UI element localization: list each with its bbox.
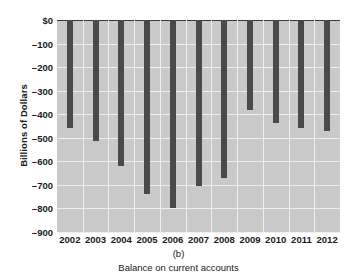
gridline-vertical [237, 20, 238, 232]
bar [247, 20, 253, 110]
y-axis-tick-label: –900 [1, 227, 53, 238]
gridline-vertical [83, 20, 84, 232]
bar [324, 20, 330, 131]
bar [221, 20, 227, 178]
gridline-vertical [186, 20, 187, 232]
x-axis-tick-label: 2012 [307, 234, 347, 245]
bar [298, 20, 304, 128]
y-axis-tick-label: –400 [1, 109, 53, 120]
gridline-vertical [289, 20, 290, 232]
panel-label: (b) [0, 248, 357, 259]
gridline-horizontal [57, 232, 340, 233]
gridline-vertical [263, 20, 264, 232]
gridline-vertical [314, 20, 315, 232]
y-axis-tick-label: $0 [1, 15, 53, 26]
y-axis-tick-label: –500 [1, 132, 53, 143]
bar [67, 20, 73, 128]
plot-area [57, 20, 340, 232]
chart-figure: Billions of Dollars $0–100–200–300–400–5… [0, 0, 357, 277]
gridline-vertical [211, 20, 212, 232]
gridline-vertical [108, 20, 109, 232]
y-axis-tick-labels: $0–100–200–300–400–500–600–700–800–900 [0, 0, 53, 277]
x-axis-tick-labels: 2002200320042005200620072008200920102011… [57, 234, 340, 248]
y-axis-tick-label: –700 [1, 179, 53, 190]
gridline-horizontal [57, 208, 340, 209]
y-axis-tick-label: –200 [1, 62, 53, 73]
gridline-vertical [160, 20, 161, 232]
y-axis-tick-label: –300 [1, 85, 53, 96]
gridline-vertical [134, 20, 135, 232]
y-axis-tick-label: –100 [1, 38, 53, 49]
bar [170, 20, 176, 208]
bar [118, 20, 124, 166]
bar [273, 20, 279, 123]
y-axis-tick-label: –800 [1, 203, 53, 214]
bar [93, 20, 99, 141]
y-axis-tick-label: –600 [1, 156, 53, 167]
bar [144, 20, 150, 194]
chart-caption: Balance on current accounts [0, 262, 357, 273]
bar [196, 20, 202, 186]
